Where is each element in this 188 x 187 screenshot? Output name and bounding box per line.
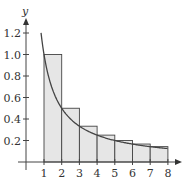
y-tick-label: 1.0 xyxy=(4,49,22,62)
y-axis-arrow-icon xyxy=(23,18,29,25)
x-tick-label: 3 xyxy=(76,167,83,180)
y-tick-label: 0.6 xyxy=(4,92,22,105)
y-tick-label: 0.2 xyxy=(4,135,22,148)
y-axis-label: y xyxy=(21,5,29,18)
y-tick-label: 0.8 xyxy=(4,70,22,83)
x-tick-label: 7 xyxy=(147,167,154,180)
x-axis-arrow-icon xyxy=(175,159,182,165)
x-tick-label: 1 xyxy=(41,167,48,180)
x-tick-label: 4 xyxy=(94,167,101,180)
chart: y 12345678 0.20.40.60.81.01.2 xyxy=(0,0,188,187)
y-tick-label: 0.4 xyxy=(4,113,22,126)
bar-group xyxy=(44,55,168,163)
x-tick-label: 2 xyxy=(58,167,65,180)
y-tick-label: 1.2 xyxy=(4,27,22,40)
bar xyxy=(62,108,80,162)
x-tick-label: 8 xyxy=(164,167,171,180)
x-tick-label: 6 xyxy=(129,167,136,180)
x-tick-label: 5 xyxy=(111,167,118,180)
y-ticks: 0.20.40.60.81.01.2 xyxy=(4,27,30,148)
bar xyxy=(97,135,115,162)
